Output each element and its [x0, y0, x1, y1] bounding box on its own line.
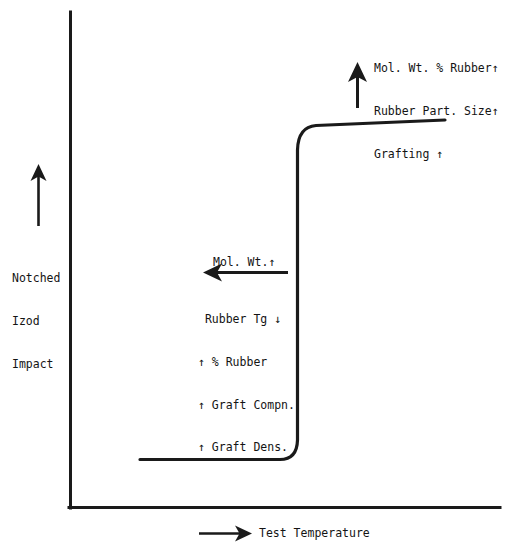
y-axis-title-line-3: Impact — [12, 357, 60, 371]
upper-plateau-arrow — [348, 62, 367, 108]
transition-annotation-line-3: ↑ Graft Compn. — [198, 398, 295, 412]
upper-annotation-line-2: Rubber Part. Size↑ — [374, 104, 499, 118]
transition-annotation-list: Rubber Tg ↓ ↑ % Rubber ↑ Graft Compn. ↑ … — [198, 284, 295, 483]
x-axis-direction-arrow — [199, 526, 252, 542]
y-axis-direction-arrow — [31, 164, 47, 226]
figure-container: Notched Izod Impact Test Temperature Mol… — [0, 0, 511, 558]
transition-annotation-line-4: ↑ Graft Dens. — [198, 440, 295, 454]
upper-annotation-line-1: Mol. Wt. % Rubber↑ — [374, 61, 499, 75]
x-axis-title: Test Temperature — [259, 526, 370, 540]
y-axis-title-line-1: Notched — [12, 271, 60, 285]
y-axis-title-line-2: Izod — [12, 314, 60, 328]
transition-annotation-line-1: Rubber Tg ↓ — [198, 312, 295, 326]
transition-annotation-heading: Mol. Wt.↑ — [213, 255, 275, 269]
upper-plateau-annotation: Mol. Wt. % Rubber↑ Rubber Part. Size↑ Gr… — [374, 33, 499, 189]
y-axis-title: Notched Izod Impact — [12, 243, 60, 399]
upper-annotation-line-3: Grafting ↑ — [374, 147, 499, 161]
transition-annotation-line-2: ↑ % Rubber — [198, 355, 295, 369]
